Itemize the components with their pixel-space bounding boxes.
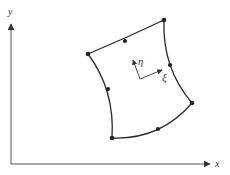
- edge-top: [88, 20, 164, 54]
- node-mid-bottom: [156, 127, 160, 131]
- node-mid-top: [123, 39, 127, 43]
- node-corner-bottom-right: [190, 101, 195, 106]
- xi-label: ξ: [162, 71, 167, 84]
- x-axis-label: x: [214, 158, 220, 169]
- node-mid-left: [106, 87, 110, 91]
- node-mid-right: [168, 63, 172, 67]
- edge-right: [164, 20, 192, 103]
- edge-left: [88, 54, 112, 138]
- node-corner-top-left: [86, 52, 91, 57]
- eta-label: η: [138, 55, 143, 67]
- edge-bottom: [112, 103, 192, 138]
- xi-axis-arrow: [140, 70, 162, 79]
- y-axis-label: y: [7, 6, 13, 17]
- node-corner-top-right: [162, 18, 167, 23]
- node-corner-bottom-left: [110, 136, 115, 141]
- element-diagram: y x η ξ: [0, 0, 230, 175]
